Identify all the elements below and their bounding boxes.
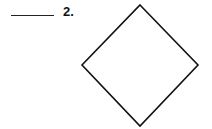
diamond-shape	[0, 0, 212, 129]
